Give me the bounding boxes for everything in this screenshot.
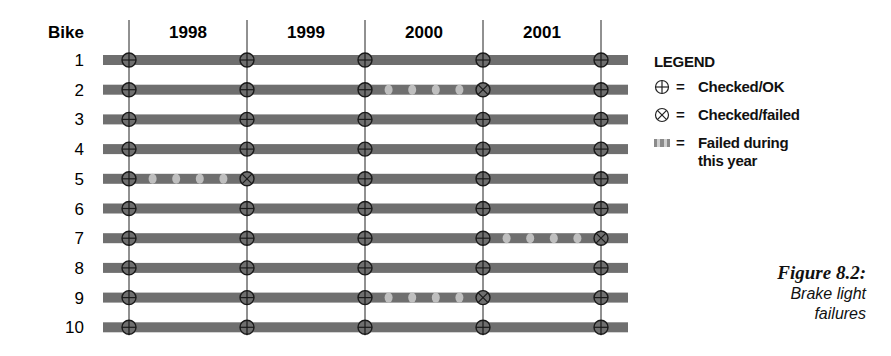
legend-label-line1: Failed during (698, 134, 788, 151)
bike-number: 5 (75, 170, 84, 189)
circle-plus-icon (122, 261, 136, 275)
legend-item-checked-ok: = Checked/OK (654, 78, 800, 106)
bike-number: 10 (65, 318, 84, 337)
bike-row-3: 3 (75, 110, 628, 129)
circle-plus-icon (476, 320, 490, 334)
circle-x-icon (654, 106, 676, 124)
column-header-1999: 1999 (287, 23, 325, 42)
legend-equals: = (676, 106, 698, 123)
circle-plus-icon (594, 202, 608, 216)
circle-plus-icon (240, 53, 254, 67)
failure-spot (573, 233, 581, 243)
failure-spot (455, 293, 463, 303)
circle-plus-icon (240, 231, 254, 245)
circle-plus-icon (122, 53, 136, 67)
circle-plus-icon (358, 83, 372, 97)
circle-plus-icon (240, 261, 254, 275)
caption-line2: failures (777, 304, 866, 324)
bike-row-6: 6 (75, 200, 628, 219)
circle-plus-icon (240, 112, 254, 126)
circle-plus-icon (122, 83, 136, 97)
circle-x-icon (594, 231, 608, 245)
failure-spot (408, 293, 416, 303)
bike-number: 4 (75, 140, 84, 159)
legend-equals: = (676, 134, 698, 151)
legend-item-checked-failed: = Checked/failed (654, 106, 800, 134)
circle-plus-icon (594, 172, 608, 186)
dotted-bar-icon (654, 134, 676, 152)
circle-plus-icon (122, 231, 136, 245)
circle-plus-icon (240, 142, 254, 156)
circle-plus-icon (358, 53, 372, 67)
failure-spot (149, 174, 157, 184)
circle-plus-icon (358, 320, 372, 334)
circle-plus-icon (476, 142, 490, 156)
circle-plus-icon (358, 261, 372, 275)
circle-plus-icon (476, 112, 490, 126)
bike-row-5: 5 (75, 170, 628, 189)
circle-plus-icon (240, 83, 254, 97)
bike-row-9: 9 (75, 289, 628, 308)
circle-plus-icon (358, 231, 372, 245)
bike-number: 1 (75, 51, 84, 70)
circle-plus-icon (476, 53, 490, 67)
circle-plus-icon (122, 112, 136, 126)
circle-plus-icon (358, 202, 372, 216)
bike-number: 9 (75, 289, 84, 308)
circle-plus-icon (594, 320, 608, 334)
failure-spot (196, 174, 204, 184)
circle-x-icon (476, 83, 490, 97)
circle-plus-icon (358, 291, 372, 305)
bike-number: 6 (75, 200, 84, 219)
bike-number: 3 (75, 110, 84, 129)
circle-plus-icon (122, 142, 136, 156)
circle-plus-icon (476, 172, 490, 186)
circle-plus-icon (240, 320, 254, 334)
legend-title: LEGEND (654, 53, 800, 70)
bike-row-2: 2 (75, 81, 628, 100)
bike-row-7: 7 (75, 229, 628, 248)
circle-plus-icon (122, 291, 136, 305)
bike-number: 7 (75, 229, 84, 248)
circle-plus-icon (240, 291, 254, 305)
failure-spot (550, 233, 558, 243)
circle-plus-icon (594, 83, 608, 97)
figure-caption: Figure 8.2: Brake light failures (777, 262, 866, 324)
failure-spot (385, 85, 393, 95)
circle-x-icon (240, 172, 254, 186)
column-header-1998: 1998 (169, 23, 207, 42)
circle-plus-icon (654, 78, 676, 96)
circle-plus-icon (122, 202, 136, 216)
bike-number: 8 (75, 259, 84, 278)
circle-plus-icon (122, 172, 136, 186)
circle-plus-icon (476, 231, 490, 245)
circle-plus-icon (594, 142, 608, 156)
failure-spot (455, 85, 463, 95)
failure-spot (503, 233, 511, 243)
row-header-bike: Bike (48, 23, 84, 42)
column-header-2001: 2001 (523, 23, 561, 42)
circle-plus-icon (358, 142, 372, 156)
circle-plus-icon (594, 53, 608, 67)
failure-spot (219, 174, 227, 184)
brake-light-failure-chart: Bike199819992000200112345678910 LEGEND =… (0, 0, 891, 356)
column-header-2000: 2000 (405, 23, 443, 42)
legend-item-failed-during-year: = Failed during this year (654, 134, 800, 174)
caption-title: Figure 8.2: (777, 262, 866, 284)
circle-plus-icon (476, 261, 490, 275)
legend-label: Checked/OK (698, 78, 784, 96)
bike-row-4: 4 (75, 140, 628, 159)
bike-number: 2 (75, 81, 84, 100)
caption-line1: Brake light (777, 284, 866, 304)
failure-spot (408, 85, 416, 95)
circle-plus-icon (594, 261, 608, 275)
failure-spot (526, 233, 534, 243)
failure-spot (172, 174, 180, 184)
failure-spot (432, 293, 440, 303)
failure-spot (432, 85, 440, 95)
bike-row-1: 1 (75, 51, 628, 70)
circle-plus-icon (122, 320, 136, 334)
bike-row-10: 10 (65, 318, 628, 337)
circle-plus-icon (240, 202, 254, 216)
legend-equals: = (676, 78, 698, 95)
